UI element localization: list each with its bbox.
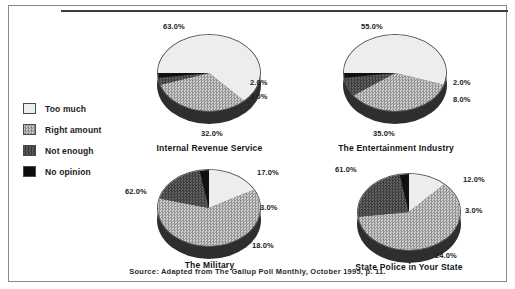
pie-label-right-amount: 35.0% — [373, 129, 395, 138]
light-dotted-swatch-icon — [23, 103, 36, 114]
pie-top-face — [343, 34, 447, 112]
legend-item-too-much: Too much — [23, 98, 128, 119]
pie-graphic — [157, 169, 261, 273]
pie-graphic — [157, 34, 261, 138]
legend: Too much Right amount Not enough No opin… — [23, 98, 128, 182]
legend-item-label: Right amount — [45, 125, 102, 135]
top-rule-divider — [61, 10, 508, 12]
pie-top-face — [157, 169, 261, 247]
pie-label-too-much: 55.0% — [361, 22, 383, 31]
pie-chart-the-military: 17.0% 3.0% 18.0% 62.0% The Military — [157, 163, 307, 273]
pie-graphic — [343, 34, 447, 138]
pie-label-no-opinion: 3.0% — [465, 206, 483, 215]
pie-top-face — [357, 173, 461, 251]
pie-label-not-enough: 3.0% — [250, 92, 268, 101]
figure-frame: Too much Right amount Not enough No opin… — [8, 5, 507, 282]
legend-item-label: No opinion — [45, 167, 91, 177]
legend-item-label: Not enough — [45, 146, 94, 156]
pie-label-not-enough: 8.0% — [453, 95, 471, 104]
pie-label-right-amount: 61.0% — [335, 165, 357, 174]
pie-label-too-much: 63.0% — [163, 22, 185, 31]
pie-chart-state-police: 61.0% 12.0% 3.0% 24.0% State Police in Y… — [357, 163, 507, 273]
dark-gray-swatch-icon — [23, 145, 36, 156]
pie-label-right-amount: 62.0% — [125, 187, 147, 196]
pie-label-too-much: 17.0% — [257, 168, 279, 177]
pie-label-too-much: 12.0% — [463, 175, 485, 184]
medium-gray-swatch-icon — [23, 124, 36, 135]
pie-label-no-opinion: 2.0% — [250, 78, 268, 87]
pie-top-face — [157, 34, 261, 112]
pie-label-right-amount: 32.0% — [201, 129, 223, 138]
pie-chart-entertainment-industry: 55.0% 2.0% 8.0% 35.0% The Entertainment … — [343, 24, 493, 134]
pie-label-no-opinion: 3.0% — [260, 203, 278, 212]
chart-title: The Entertainment Industry — [326, 143, 466, 153]
legend-item-right-amount: Right amount — [23, 119, 128, 140]
chart-title: Internal Revenue Service — [147, 143, 272, 153]
pie-chart-internal-revenue-service: 63.0% 2.0% 3.0% 32.0% Internal Revenue S… — [157, 24, 307, 134]
black-swatch-icon — [23, 166, 36, 177]
legend-item-label: Too much — [45, 104, 86, 114]
legend-item-not-enough: Not enough — [23, 140, 128, 161]
pie-label-not-enough: 18.0% — [252, 241, 274, 250]
legend-item-no-opinion: No opinion — [23, 161, 128, 182]
source-note: Source: Adapted from The Gallup Poll Mon… — [9, 267, 506, 276]
pie-label-not-enough: 24.0% — [435, 251, 457, 260]
pie-label-no-opinion: 2.0% — [453, 78, 471, 87]
